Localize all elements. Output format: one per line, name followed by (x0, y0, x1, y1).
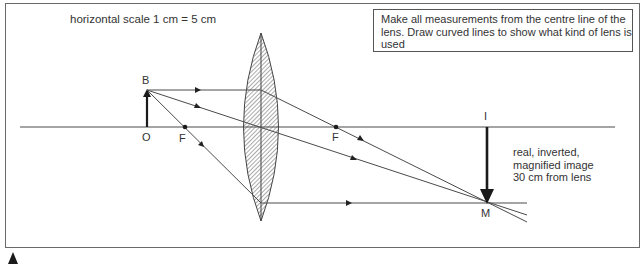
focal-point-right (334, 125, 339, 130)
image-arrow (480, 127, 494, 204)
ray-parallel (147, 90, 527, 222)
label-b: B (142, 74, 149, 86)
label-f-right: F (332, 131, 339, 143)
focal-point-left (183, 125, 188, 130)
image-desc-line: real, inverted, (513, 146, 594, 159)
ray-arrowhead (346, 200, 352, 206)
ray-arrowhead (350, 155, 357, 160)
label-i: I (484, 110, 487, 122)
label-m: M (481, 207, 490, 219)
label-o: O (142, 131, 151, 143)
ray-centre (147, 90, 527, 215)
image-desc-line: magnified image (513, 159, 594, 172)
note-line: used (381, 38, 627, 51)
label-f-left: F (179, 132, 186, 144)
ray-arrowhead (194, 103, 201, 108)
instruction-note: Make all measurements from the centre li… (373, 9, 633, 52)
image-description: real, inverted, magnified image 30 cm fr… (513, 146, 594, 184)
ray-arrowhead (195, 87, 201, 93)
triangle-marker-icon (8, 252, 18, 264)
note-line: lens. Draw curved lines to show what kin… (381, 26, 627, 39)
image-desc-line: 30 cm from lens (513, 171, 594, 184)
note-line: Make all measurements from the centre li… (381, 13, 627, 26)
scale-label: horizontal scale 1 cm = 5 cm (70, 13, 216, 25)
ray-focal (147, 90, 527, 203)
object-arrow (143, 89, 151, 127)
